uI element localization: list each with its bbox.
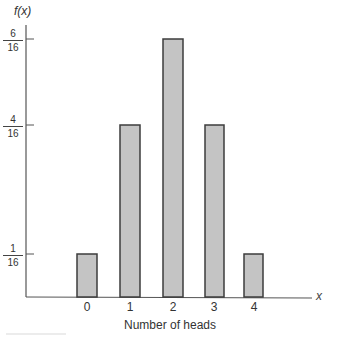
bar-3 (205, 125, 224, 297)
bars-group (77, 39, 263, 297)
y-tick-numerator: 6 (3, 28, 23, 41)
y-tick-label-1-16: 1 16 (3, 243, 23, 268)
bar-4 (244, 254, 263, 297)
bar-chart (0, 0, 348, 339)
y-axis-label: f(x) (14, 4, 31, 18)
y-tick-numerator: 4 (3, 114, 23, 127)
x-tick-label-4: 4 (244, 300, 264, 314)
y-tick-numerator: 1 (3, 243, 23, 256)
x-axis-variable: x (316, 289, 322, 303)
x-tick-label-0: 0 (77, 300, 97, 314)
x-tick-label-3: 3 (204, 300, 224, 314)
bar-1 (120, 125, 140, 297)
y-tick-label-6-16: 6 16 (3, 28, 23, 53)
y-tick-label-4-16: 4 16 (3, 114, 23, 139)
y-tick-denominator: 16 (3, 41, 23, 53)
x-tick-label-1: 1 (120, 300, 140, 314)
bar-0 (77, 254, 97, 297)
y-tick-denominator: 16 (3, 256, 23, 268)
y-tick-denominator: 16 (3, 127, 23, 139)
x-axis-label: Number of heads (100, 318, 240, 332)
bar-2 (163, 39, 183, 297)
faded-caption (6, 333, 66, 335)
x-tick-label-2: 2 (163, 300, 183, 314)
